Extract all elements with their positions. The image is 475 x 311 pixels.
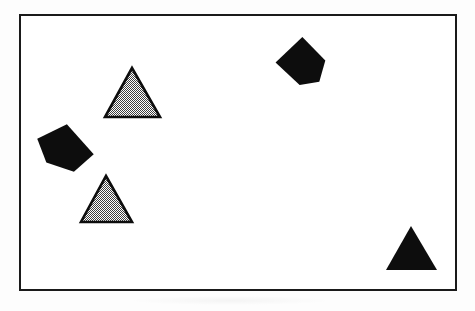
scan-artifact-smudge [130,296,330,305]
figure-canvas: gray stippled triangle, upper leftgray s… [0,0,475,311]
